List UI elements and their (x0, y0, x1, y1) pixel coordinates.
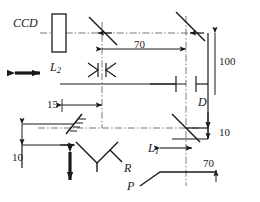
label-lens-l2-subscript: 2 (57, 65, 61, 75)
beam-rails-right-lower (172, 128, 208, 139)
label-prism-p: P (127, 180, 134, 192)
label-lens-l2-text: L (50, 60, 57, 74)
label-retroreflector-r: R (124, 162, 131, 174)
mirror-top-right (176, 12, 205, 41)
ccd-detector (52, 14, 66, 52)
optical-diagram: CCD L2 L1 R P D 70 100 15 10 10 70 (0, 0, 260, 202)
label-aperture-d: D (198, 96, 207, 108)
label-ccd: CCD (13, 17, 38, 29)
dimension-label-10-left: 10 (12, 152, 23, 163)
label-lens-l1-text: L (148, 141, 155, 155)
beam-rails-left (22, 124, 75, 168)
label-lens-l1: L1 (148, 142, 159, 156)
dimension-label-10-right: 10 (219, 127, 230, 138)
label-lens-l2: L2 (50, 61, 61, 75)
beamsplitter-top (89, 17, 117, 45)
dimension-label-15: 15 (47, 99, 58, 110)
prism-plate-p (140, 172, 216, 186)
dimension-label-70-bottom: 70 (203, 158, 214, 169)
dimension-label-70-top: 70 (134, 39, 145, 50)
retroreflector-r (76, 142, 122, 172)
label-lens-l1-subscript: 1 (155, 146, 159, 156)
dimension-label-100: 100 (219, 56, 236, 67)
